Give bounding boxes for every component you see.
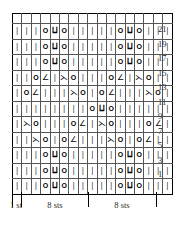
chart-cell-knit: | <box>41 86 50 102</box>
symbol-left-leaning-decrease-icon: ∠ <box>116 71 124 86</box>
chart-cell-empty <box>125 14 134 24</box>
symbol-knit-icon: | <box>22 164 30 179</box>
symbol-knit-icon: | <box>88 86 96 101</box>
chart-cell-empty <box>13 14 22 24</box>
symbol-knit-icon: | <box>79 133 87 148</box>
symbol-right-leaning-decrease-icon: ⋋ <box>22 117 30 132</box>
chart-cell-knit: | <box>31 179 40 195</box>
symbol-yarn-over-icon: O <box>32 71 40 86</box>
chart-cell-central-double-decrease: ⨿ <box>97 101 106 117</box>
chart-cell-yarn-over: O <box>135 132 144 148</box>
symbol-knit-icon: | <box>60 102 68 117</box>
repeat-label: 1 st <box>0 199 36 211</box>
symbol-knit-icon: | <box>144 40 152 55</box>
chart-cell-knit: | <box>125 86 134 102</box>
chart-cell-empty <box>144 14 153 24</box>
symbol-knit-icon: | <box>79 179 87 194</box>
symbol-left-leaning-decrease-icon: ∠ <box>69 133 77 148</box>
chart-cell-central-double-decrease: ⨿ <box>50 163 59 179</box>
chart-cell-knit: | <box>88 148 97 164</box>
symbol-yarn-over-icon: O <box>135 179 143 194</box>
chart-cell-yarn-over: O <box>144 70 153 86</box>
chart-cell-yarn-over: O <box>116 148 125 164</box>
symbol-knit-icon: | <box>88 164 96 179</box>
chart-cell-knit: | <box>88 132 97 148</box>
chart-cell-knit: | <box>97 39 106 55</box>
symbol-yarn-over-icon: O <box>41 24 49 39</box>
symbol-yarn-over-icon: O <box>144 117 152 132</box>
chart-cell-knit: | <box>59 86 68 102</box>
chart-cell-right-leaning-decrease: ⋋ <box>59 70 68 86</box>
chart-cell-knit: | <box>69 39 78 55</box>
chart-row: |||O⨿O|||||O⨿O||| <box>13 163 173 179</box>
symbol-left-leaning-decrease-icon: ∠ <box>144 133 152 148</box>
symbol-yarn-over-icon: O <box>60 24 68 39</box>
symbol-knit-icon: | <box>13 164 21 179</box>
chart-cell-knit: | <box>22 132 31 148</box>
row-number-21: 21 <box>158 22 180 37</box>
symbol-yarn-over-icon: O <box>135 55 143 70</box>
symbol-knit-icon: | <box>32 24 40 39</box>
symbol-knit-icon: | <box>69 164 77 179</box>
chart-cell-knit: | <box>69 101 78 117</box>
chart-row: |O∠|||⋋O|O∠|||⋋O| <box>13 86 173 102</box>
symbol-knit-icon: | <box>69 55 77 70</box>
chart-cell-knit: | <box>106 55 115 71</box>
symbol-knit-icon: | <box>51 102 59 117</box>
chart-cell-central-double-decrease: ⨿ <box>125 179 134 195</box>
chart-cell-yarn-over: O <box>59 39 68 55</box>
symbol-yarn-over-icon: O <box>60 164 68 179</box>
symbol-knit-icon: | <box>41 102 49 117</box>
chart-cell-empty <box>106 14 115 24</box>
chart-cell-knit: | <box>13 55 22 71</box>
symbol-knit-icon: | <box>98 179 106 194</box>
row-number-9: 9 <box>158 109 180 124</box>
chart-cell-empty <box>97 14 106 24</box>
chart-row: |||O⨿O|||||O⨿O||| <box>13 148 173 164</box>
chart-cell-yarn-over: O <box>135 55 144 71</box>
row-number-17: 17 <box>158 51 180 66</box>
chart-cell-central-double-decrease: ⨿ <box>50 179 59 195</box>
chart-cell-knit: | <box>31 39 40 55</box>
chart-cell-knit: | <box>97 163 106 179</box>
symbol-central-double-decrease-icon: ⨿ <box>51 40 59 55</box>
symbol-yarn-over-icon: O <box>135 133 143 148</box>
symbol-knit-icon: | <box>13 55 21 70</box>
chart-row: |||O⨿O|||||O⨿O||| <box>13 55 173 71</box>
symbol-knit-icon: | <box>51 71 59 86</box>
chart-cell-knit: | <box>22 148 31 164</box>
chart-cell-knit: | <box>78 55 87 71</box>
chart-cell-knit: | <box>69 179 78 195</box>
chart-cell-yarn-over: O <box>59 55 68 71</box>
symbol-knit-icon: | <box>144 55 152 70</box>
chart-cell-central-double-decrease: ⨿ <box>50 55 59 71</box>
chart-cell-yarn-over: O <box>116 55 125 71</box>
chart-cell-knit: | <box>22 179 31 195</box>
chart-cell-knit: | <box>31 55 40 71</box>
symbol-central-double-decrease-icon: ⨿ <box>98 102 106 117</box>
chart-cell-knit: | <box>31 148 40 164</box>
chart-cell-yarn-over: O <box>41 39 50 55</box>
chart-cell-yarn-over: O <box>59 179 68 195</box>
symbol-right-leaning-decrease-icon: ⋋ <box>69 86 77 101</box>
symbol-knit-icon: | <box>69 24 77 39</box>
symbol-knit-icon: | <box>88 133 96 148</box>
symbol-central-double-decrease-icon: ⨿ <box>126 40 134 55</box>
symbol-knit-icon: | <box>135 117 143 132</box>
row-number-1: 1 <box>158 167 180 182</box>
symbol-knit-icon: | <box>116 117 124 132</box>
chart-cell-knit: | <box>144 179 153 195</box>
symbol-central-double-decrease-icon: ⨿ <box>51 148 59 163</box>
chart-cell-knit: | <box>13 117 22 133</box>
symbol-knit-icon: | <box>22 71 30 86</box>
symbol-knit-icon: | <box>69 102 77 117</box>
symbol-knit-icon: | <box>144 164 152 179</box>
symbol-yarn-over-icon: O <box>107 117 115 132</box>
symbol-knit-icon: | <box>51 133 59 148</box>
chart-cell-empty <box>31 14 40 24</box>
symbol-yarn-over-icon: O <box>41 55 49 70</box>
symbol-right-leaning-decrease-icon: ⋋ <box>144 86 152 101</box>
row-number-7: 7 <box>158 124 180 139</box>
chart-cell-yarn-over: O <box>69 70 78 86</box>
symbol-knit-icon: | <box>69 179 77 194</box>
